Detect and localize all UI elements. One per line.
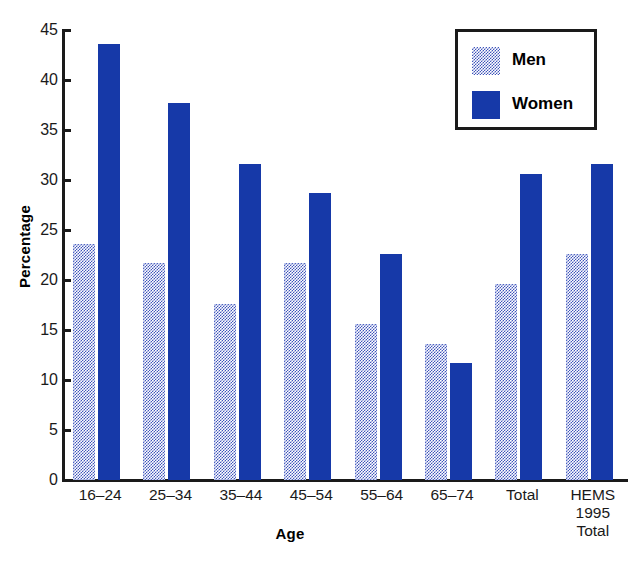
x-axis-tick-label: Total	[485, 486, 559, 504]
bar-group	[347, 30, 417, 480]
x-axis-tick-label-line: Total	[485, 486, 559, 504]
x-axis-tick-label-line: 35–44	[204, 486, 278, 504]
x-axis-tick-label: 55–64	[345, 486, 419, 504]
y-axis-tick-label: 40	[22, 72, 58, 88]
bar-chart: Percentage 051015202530354045 16–2425–34…	[0, 0, 635, 563]
y-axis-tick-mark	[62, 329, 71, 332]
x-axis-tick-label: 65–74	[415, 486, 489, 504]
bar-men	[566, 254, 588, 480]
y-axis-tick-mark	[62, 79, 71, 82]
bar-group	[276, 30, 346, 480]
x-axis-tick-label-line: 45–54	[274, 486, 348, 504]
x-axis-tick-label-line: 55–64	[345, 486, 419, 504]
legend: Men Women	[455, 29, 597, 130]
y-axis-tick-mark	[62, 129, 71, 132]
x-axis-tick-label-line: 25–34	[134, 486, 208, 504]
x-axis-tick-label: 45–54	[274, 486, 348, 504]
bar-men	[143, 263, 165, 480]
x-axis-tick-labels: 16–2425–3435–4445–5455–6465–74TotalHEMS1…	[65, 486, 628, 561]
bar-women	[450, 363, 472, 480]
y-axis-tick-label: 15	[22, 322, 58, 338]
x-axis-title: Age	[0, 525, 580, 542]
bar-group	[206, 30, 276, 480]
y-axis-tick-mark	[62, 279, 71, 282]
y-axis-tick-label: 20	[22, 272, 58, 288]
y-axis-tick-mark	[62, 29, 71, 32]
x-axis-tick-label-line: 65–74	[415, 486, 489, 504]
y-axis-tick-label: 0	[22, 472, 58, 488]
bar-women	[168, 103, 190, 480]
x-axis-tick-label-line: 1995	[556, 504, 630, 522]
bar-women	[591, 164, 613, 480]
x-axis-tick-label-line: HEMS	[556, 486, 630, 504]
y-axis-tick-mark	[62, 429, 71, 432]
y-axis-tick-labels: 051015202530354045	[22, 0, 58, 563]
bar-women	[239, 164, 261, 480]
bar-group	[135, 30, 205, 480]
bar-men	[355, 324, 377, 480]
x-axis-tick-label: 25–34	[134, 486, 208, 504]
bar-men	[495, 284, 517, 480]
bar-women	[380, 254, 402, 480]
bar-women	[98, 44, 120, 480]
x-axis-tick-label: 35–44	[204, 486, 278, 504]
y-axis-tick-mark	[62, 229, 71, 232]
bar-men	[73, 244, 95, 480]
y-axis-tick-label: 25	[22, 222, 58, 238]
bar-women	[520, 174, 542, 480]
bar-men	[214, 304, 236, 480]
y-axis-tick-mark	[62, 179, 71, 182]
y-axis-tick-label: 30	[22, 172, 58, 188]
x-axis-tick-label: 16–24	[63, 486, 137, 504]
y-axis-tick-label: 10	[22, 372, 58, 388]
legend-swatch-men-icon	[472, 47, 500, 75]
bar-group	[65, 30, 135, 480]
y-axis-tick-label: 45	[22, 22, 58, 38]
bar-men	[425, 344, 447, 480]
bar-women	[309, 193, 331, 480]
legend-label-men: Men	[512, 50, 546, 70]
y-axis-tick-label: 35	[22, 122, 58, 138]
legend-swatch-women-icon	[472, 91, 500, 119]
x-axis-tick-label-line: 16–24	[63, 486, 137, 504]
y-axis-tick-mark	[62, 379, 71, 382]
y-axis-tick-label: 5	[22, 422, 58, 438]
legend-label-women: Women	[512, 94, 573, 114]
bar-men	[284, 263, 306, 480]
